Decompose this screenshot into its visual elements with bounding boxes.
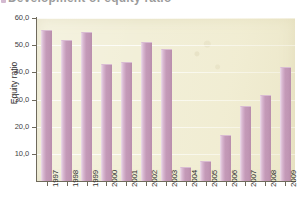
- bar: [161, 49, 172, 181]
- x-tick-label: 2006: [230, 170, 239, 187]
- x-tick-label: 1999: [91, 170, 100, 187]
- bullet-icon: [1, 0, 6, 3]
- bar: [61, 40, 72, 181]
- chart-figure: Development of equity ratio 10,020,030,0…: [0, 0, 301, 224]
- x-tick-label: 2001: [130, 170, 139, 187]
- x-tick-label: 2009: [289, 170, 298, 187]
- x-tick-label: 2004: [190, 170, 199, 187]
- bar: [260, 95, 271, 181]
- bar: [41, 30, 52, 181]
- bar: [141, 42, 152, 181]
- x-tick-label: 2005: [210, 170, 219, 187]
- bar: [81, 32, 92, 181]
- x-tick-label: 2007: [249, 170, 258, 187]
- bar: [280, 67, 291, 181]
- bar: [101, 64, 112, 181]
- chart-title: Development of equity ratio: [8, 0, 171, 5]
- x-tick-label: 1997: [51, 170, 60, 187]
- x-tick-label: 2008: [269, 170, 278, 187]
- y-tick-label: 10,0: [3, 149, 29, 158]
- bar-series: [37, 18, 295, 181]
- y-tick-label: 60,0: [3, 13, 29, 22]
- bar: [121, 62, 132, 181]
- x-tick-label: 2002: [150, 170, 159, 187]
- x-tick-label: 2003: [170, 170, 179, 187]
- chart-title-strip: Development of equity ratio: [0, 0, 301, 13]
- x-tick-label: 1998: [71, 170, 80, 187]
- y-tick-label: 20,0: [3, 122, 29, 131]
- x-axis-labels: 1997199819992000200120022003200420052006…: [0, 186, 301, 224]
- y-axis-title: Equity ratio: [9, 48, 19, 118]
- x-tick-label: 2000: [110, 170, 119, 187]
